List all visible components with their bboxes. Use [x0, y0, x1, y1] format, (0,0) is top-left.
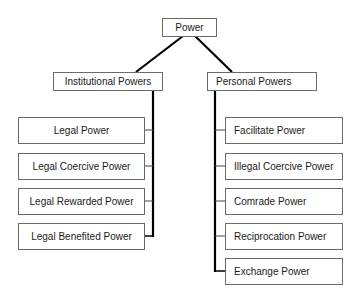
- leaf-node-legal-power: Legal Power: [18, 117, 145, 144]
- node-label: Power: [175, 22, 203, 33]
- node-label: Illegal Coercive Power: [234, 161, 334, 172]
- node-label: Legal Power: [54, 125, 110, 136]
- node-label: Exchange Power: [234, 266, 310, 277]
- node-label: Institutional Powers: [65, 76, 152, 87]
- node-label: Legal Benefited Power: [31, 231, 132, 242]
- node-label: Legal Rewarded Power: [30, 196, 134, 207]
- leaf-node-legal-benefited-power: Legal Benefited Power: [18, 223, 145, 250]
- branch-node-personal-powers: Personal Powers: [207, 72, 317, 91]
- leaf-node-reciprocation-power: Reciprocation Power: [225, 223, 343, 250]
- node-label: Facilitate Power: [234, 125, 305, 136]
- leaf-node-legal-rewarded-power: Legal Rewarded Power: [18, 188, 145, 215]
- leaf-node-legal-coercive-power: Legal Coercive Power: [18, 153, 145, 180]
- node-label: Personal Powers: [216, 76, 292, 87]
- leaf-node-comrade-power: Comrade Power: [225, 188, 343, 215]
- leaf-node-exchange-power: Exchange Power: [225, 258, 343, 285]
- node-label: Legal Coercive Power: [33, 161, 131, 172]
- branch-node-institutional-powers: Institutional Powers: [53, 72, 163, 91]
- leaf-node-facilitate-power: Facilitate Power: [225, 117, 343, 144]
- node-label: Comrade Power: [234, 196, 306, 207]
- connector-lines: [0, 0, 358, 302]
- root-node-power: Power: [162, 18, 217, 37]
- node-label: Reciprocation Power: [234, 231, 326, 242]
- leaf-node-illegal-coercive-power: Illegal Coercive Power: [225, 153, 343, 180]
